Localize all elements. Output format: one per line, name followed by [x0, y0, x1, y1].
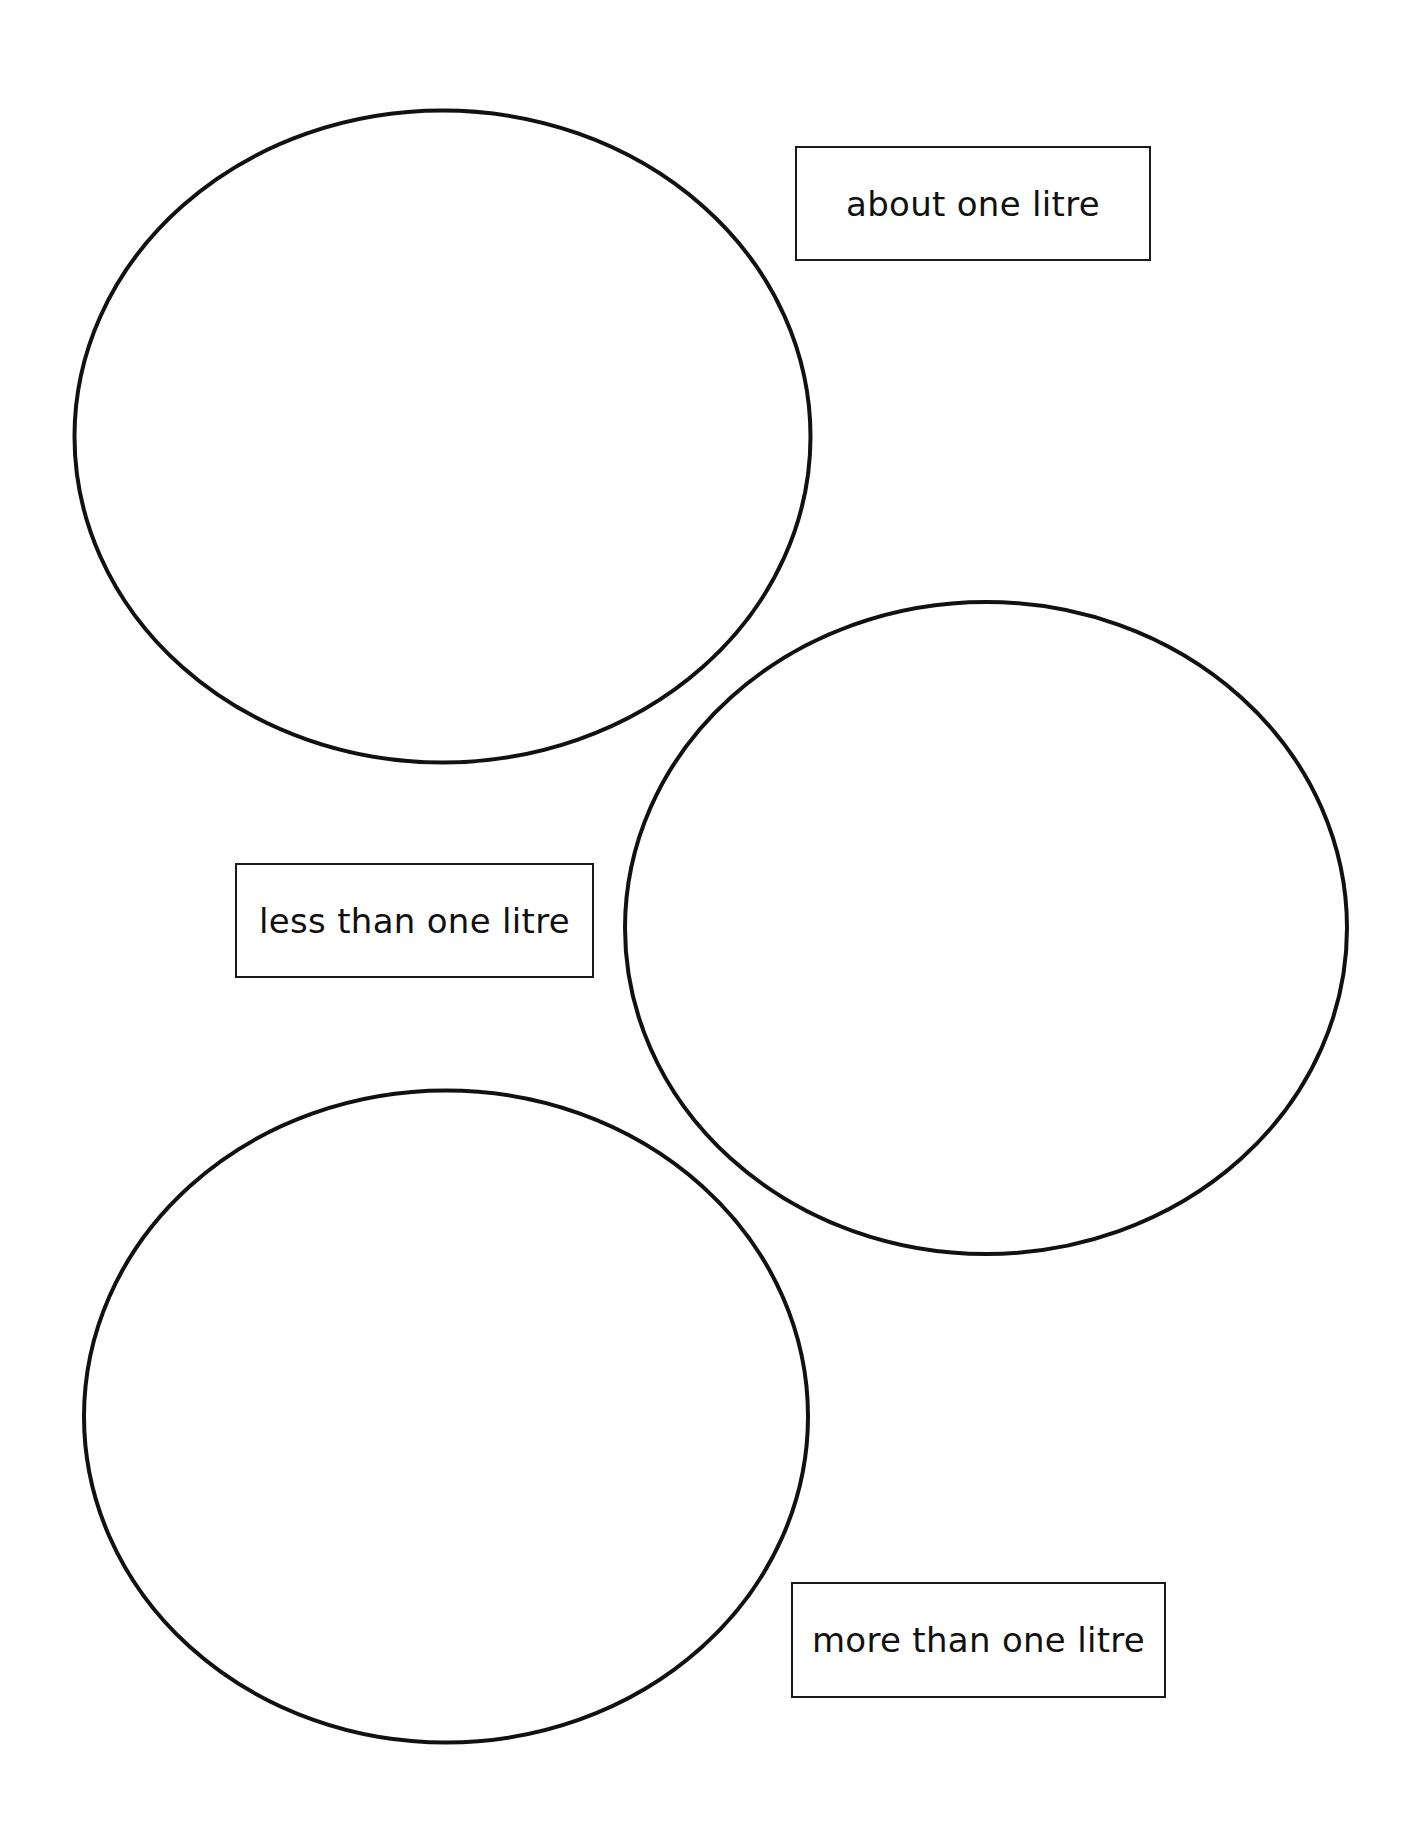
label-about-one-litre[interactable]: about one litre: [795, 146, 1151, 261]
label-more-than-one-litre[interactable]: more than one litre: [791, 1582, 1166, 1698]
label-text: more than one litre: [812, 1620, 1145, 1660]
sorting-circles: [0, 0, 1416, 1830]
sorting-circle-top-left[interactable]: [75, 111, 811, 763]
worksheet-page: about one litre less than one litre more…: [0, 0, 1416, 1830]
label-text: less than one litre: [259, 901, 570, 941]
sorting-circle-bottom-left[interactable]: [84, 1091, 808, 1743]
sorting-circle-middle-right[interactable]: [625, 602, 1347, 1254]
label-less-than-one-litre[interactable]: less than one litre: [235, 863, 594, 978]
label-text: about one litre: [846, 184, 1100, 224]
